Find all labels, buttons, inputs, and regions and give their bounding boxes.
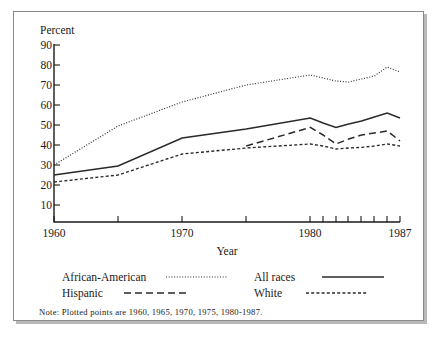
y-tick-label-80: 80 (41, 59, 53, 71)
y-tick-label-50: 50 (41, 119, 53, 131)
line-chart: Percent 90 80 70 60 50 40 30 20 10 (14, 12, 423, 320)
axis-lines (54, 44, 400, 222)
y-tick-label-20: 20 (41, 179, 53, 191)
series-line-white (54, 144, 400, 182)
series-line-hispanic (246, 127, 400, 146)
y-tick-label-60: 60 (41, 99, 53, 111)
x-tick-label-1980: 1980 (299, 227, 322, 239)
y-tick-label-40: 40 (41, 139, 53, 151)
y-tick-label-90: 90 (41, 39, 53, 51)
x-tick-label-1960: 1960 (43, 227, 66, 239)
y-tick-label-30: 30 (41, 159, 53, 171)
legend-label-all-races: All races (254, 271, 296, 283)
y-axis-ticks (54, 45, 60, 205)
x-axis-tick-labels: 1960 1970 1980 1987 (43, 227, 412, 239)
figure-frame: Percent 90 80 70 60 50 40 30 20 10 (13, 11, 424, 321)
legend-label-hispanic: Hispanic (62, 287, 103, 300)
x-tick-label-1987: 1987 (389, 227, 412, 239)
y-axis-tick-labels: 90 80 70 60 50 40 30 20 10 (41, 39, 53, 211)
y-tick-label-10: 10 (41, 199, 53, 211)
x-tick-label-1970: 1970 (171, 227, 194, 239)
legend-label-african-american: African-American (62, 271, 147, 283)
y-axis-title: Percent (40, 24, 75, 36)
x-axis-ticks (54, 216, 400, 222)
legend-label-white: White (254, 287, 282, 299)
series-line-all-races (54, 113, 400, 175)
y-tick-label-70: 70 (41, 79, 53, 91)
chart-legend: African-American All races Hispanic Whit… (62, 271, 384, 300)
chart-note: Note: Plotted points are 1960, 1965, 197… (39, 307, 263, 317)
x-axis-title: Year (216, 245, 237, 257)
